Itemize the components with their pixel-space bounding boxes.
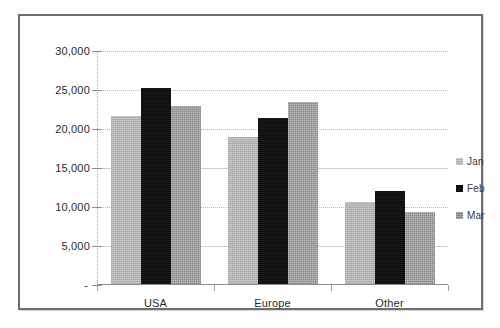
y-tick-mark [92,90,102,91]
y-tick-mark [92,168,102,169]
legend-item-feb[interactable]: Feb [456,175,500,202]
legend-label: Feb [467,183,485,194]
y-axis-labels: -5,00010,00015,00020,00025,00030,000 [42,51,90,285]
x-tick-mark [331,285,332,291]
legend-label: Mar [467,210,485,221]
y-tick-mark [92,246,102,247]
legend-label: Jan [467,156,484,167]
bar-usa-feb[interactable] [141,88,171,285]
legend-swatch-jan [456,158,463,165]
y-axis-tick-label: 20,000 [55,123,90,135]
y-tick-mark [92,129,102,130]
y-axis-tick-label: 15,000 [55,162,90,174]
x-tick-mark [214,285,215,291]
y-axis-tick-label: 5,000 [61,240,90,252]
x-tick-mark [448,285,449,291]
bar-group [228,51,318,285]
legend-item-mar[interactable]: Mar [456,202,500,229]
x-tick-mark [97,285,98,291]
bar-group [111,51,201,285]
legend-swatch-mar [456,212,463,219]
y-axis-tick-label: - [84,279,90,291]
x-axis-label-europe: Europe [254,297,291,309]
plot-area [97,51,448,285]
bar-usa-mar[interactable] [171,106,201,285]
y-axis-tick-label: 25,000 [55,84,90,96]
x-axis-label-usa: USA [144,297,167,309]
bar-other-mar[interactable] [405,212,435,285]
y-axis-tick-label: 10,000 [55,201,90,213]
legend-swatch-feb [456,185,463,192]
x-axis-label-other: Other [375,297,404,309]
y-tick-mark [92,207,102,208]
bar-other-feb[interactable] [375,191,405,285]
x-axis-labels: USAEuropeOther [97,297,448,315]
bar-usa-jan[interactable] [111,116,141,285]
chart-frame: -5,00010,00015,00020,00025,00030,000 USA… [18,14,483,310]
legend-item-jan[interactable]: Jan [456,148,500,175]
chart-legend: JanFebMar [456,148,500,229]
bar-europe-feb[interactable] [258,118,288,285]
bar-europe-mar[interactable] [288,102,318,285]
x-axis-ticks [97,285,448,293]
bar-group [345,51,435,285]
bar-other-jan[interactable] [345,202,375,285]
y-axis-tick-label: 30,000 [55,45,90,57]
bar-europe-jan[interactable] [228,137,258,285]
chart-figure: -5,00010,00015,00020,00025,00030,000 USA… [0,0,500,328]
y-tick-mark [92,51,102,52]
